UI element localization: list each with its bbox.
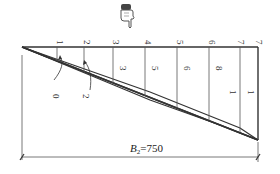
inner-label: 6 (182, 66, 192, 71)
top-label: 1 (55, 40, 65, 45)
inner-label: 5 (150, 66, 160, 71)
inner-label: 8 (214, 66, 224, 71)
top-label: 3 (111, 40, 121, 45)
lower-labels: 0 2 (51, 94, 91, 99)
top-label: 2 (82, 40, 92, 45)
inner-labels: 3 5 6 8 1 1 (118, 66, 256, 95)
top-label: 6 (207, 40, 217, 45)
dimension-label: B2=750 (130, 142, 163, 156)
inner-label: 1 (246, 90, 256, 95)
pointing-hand-icon (117, 3, 139, 29)
lower-label: 0 (51, 94, 61, 99)
top-label: 4 (143, 40, 153, 45)
lower-label: 2 (81, 94, 91, 99)
inner-label: 1 (228, 90, 238, 95)
top-labels: 1 2 3 4 5 6 7 7 (55, 40, 264, 45)
top-label: 5 (175, 40, 185, 45)
plate-layout-diagram: 1 2 3 4 5 6 7 7 3 5 6 8 1 1 0 2 B2=750 (0, 0, 280, 174)
inner-label: 3 (118, 66, 128, 71)
top-label: 7 (254, 40, 264, 45)
top-label: 7 (236, 40, 246, 45)
leader-arrow-2 (85, 62, 91, 90)
